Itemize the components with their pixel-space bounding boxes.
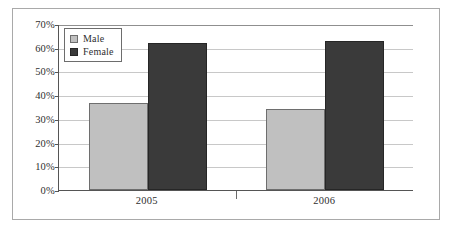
legend-item-female[interactable]: Female (70, 45, 114, 58)
y-axis-tick-label: 40% (13, 91, 55, 102)
bar-2006-female (325, 41, 384, 190)
y-axis-tick-label: 60% (13, 43, 55, 54)
bar-chart: 0%10%20%30%40%50%60%70% 20052006 MaleFem… (13, 9, 441, 221)
x-axis-labels: 20052006 (58, 195, 413, 215)
gridline (59, 25, 413, 26)
female-swatch-icon (70, 48, 78, 56)
y-tick-mark (55, 96, 59, 97)
y-axis-tick-label: 0% (13, 186, 55, 197)
legend-item-label: Male (83, 34, 104, 44)
legend-item-male[interactable]: Male (70, 32, 114, 45)
x-axis-separator-tick (236, 191, 237, 199)
y-axis-labels: 0%10%20%30%40%50%60%70% (13, 25, 55, 191)
y-tick-mark (55, 72, 59, 73)
x-axis-tick-label: 2006 (313, 195, 335, 206)
y-axis-tick-label: 20% (13, 138, 55, 149)
y-tick-mark (55, 144, 59, 145)
y-axis-tick-label: 50% (13, 67, 55, 78)
chart-legend: MaleFemale (64, 28, 122, 62)
y-axis-tick-label: 70% (13, 20, 55, 31)
legend-item-label: Female (83, 47, 114, 57)
bar-2006-male (266, 109, 325, 190)
bar-2005-female (148, 43, 207, 190)
bar-2005-male (89, 103, 148, 190)
figure-frame: 0%10%20%30%40%50%60%70% 20052006 MaleFem… (12, 8, 440, 220)
x-axis-tick-label: 2005 (136, 195, 158, 206)
y-tick-mark (55, 120, 59, 121)
y-tick-mark (55, 191, 59, 192)
y-axis-tick-label: 10% (13, 162, 55, 173)
y-tick-mark (55, 49, 59, 50)
y-tick-mark (55, 167, 59, 168)
y-axis-tick-label: 30% (13, 115, 55, 126)
male-swatch-icon (70, 35, 78, 43)
y-tick-mark (55, 25, 59, 26)
